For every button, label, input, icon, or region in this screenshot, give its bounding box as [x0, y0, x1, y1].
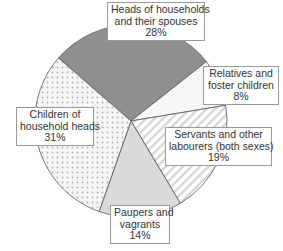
label-heads-line1: Heads of households — [111, 4, 201, 16]
label-children: Children of household heads 31% — [16, 107, 94, 146]
label-heads-pct: 28% — [111, 27, 201, 39]
label-servants: Servants and other labourers (both sexes… — [165, 127, 272, 166]
label-servants-line1: Servants and other — [169, 129, 268, 141]
label-paupers-pct: 14% — [114, 230, 166, 242]
label-paupers: Paupers and vagrants 14% — [110, 205, 170, 244]
label-children-pct: 31% — [20, 132, 90, 144]
label-relatives-line1: Relatives and — [207, 68, 275, 80]
label-heads: Heads of households and their spouses 28… — [107, 2, 205, 41]
label-paupers-line1: Paupers and — [114, 207, 166, 219]
label-servants-pct: 19% — [169, 152, 268, 164]
label-children-line1: Children of — [20, 109, 90, 121]
label-relatives-pct: 8% — [207, 91, 275, 103]
label-relatives: Relatives and foster children 8% — [203, 66, 279, 105]
